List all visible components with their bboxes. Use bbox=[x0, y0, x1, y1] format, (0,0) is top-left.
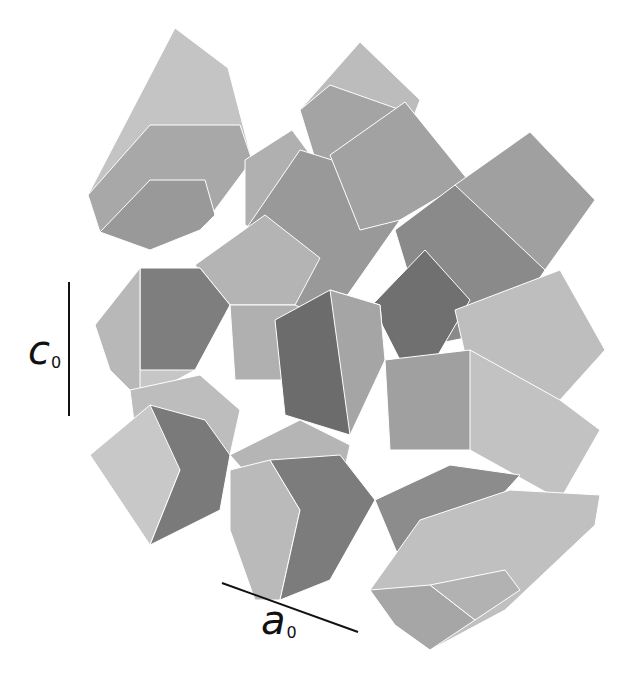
c-axis-subscript: 0 bbox=[51, 353, 61, 372]
octahedra-layer bbox=[88, 28, 605, 650]
octahedron-face bbox=[95, 268, 140, 400]
c-axis-label: c0 bbox=[28, 330, 61, 370]
a-axis-symbol: a bbox=[261, 597, 286, 643]
a-axis-label: a0 bbox=[261, 600, 297, 640]
crystal-structure-diagram bbox=[0, 0, 637, 687]
a-axis-subscript: 0 bbox=[287, 623, 297, 642]
c-axis-symbol: c bbox=[28, 327, 50, 373]
